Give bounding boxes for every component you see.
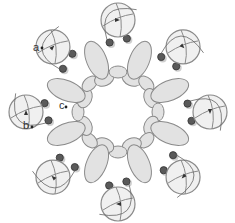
label-a: a xyxy=(33,42,39,53)
label-pointer-dot xyxy=(41,47,44,50)
label-pointer-dot xyxy=(31,126,34,129)
label-c: c xyxy=(59,100,65,111)
inner-oval-bead xyxy=(109,66,127,78)
beadwork-diagram xyxy=(0,0,235,223)
seed-bead xyxy=(71,163,78,170)
label-pointer-dot xyxy=(65,106,68,109)
seed-bead xyxy=(158,53,165,60)
seed-bead xyxy=(169,152,176,159)
label-b: b xyxy=(23,120,29,131)
seed-bead xyxy=(59,65,66,72)
